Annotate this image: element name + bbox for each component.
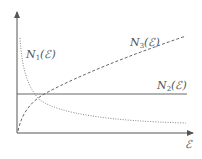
label-n3: N3(ℰ) xyxy=(129,36,160,50)
diagram: N1(ℰ) N3(ℰ) N2(ℰ) ℰ xyxy=(0,0,202,159)
label-n2: N2(ℰ) xyxy=(156,79,187,93)
x-axis-label: ℰ xyxy=(185,138,193,151)
label-n1: N1(ℰ) xyxy=(25,48,56,62)
